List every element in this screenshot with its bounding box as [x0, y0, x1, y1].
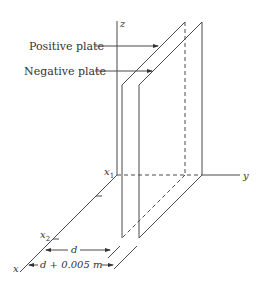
positive-plate-label: Positive plate [29, 40, 104, 53]
d-label: d [71, 244, 77, 255]
negative-plate [139, 22, 202, 238]
negative-plate-label: Negative plate [24, 65, 106, 78]
z-axis-label: z [119, 18, 126, 29]
y-axis-label: y [242, 170, 249, 181]
capacitor-plates-diagram: z y x x1 x2 Positive plate Negative plat… [0, 0, 264, 286]
x-axis [20, 175, 117, 272]
d-extension-line [108, 246, 120, 258]
x2-label: x2 [40, 229, 50, 243]
positive-plate [122, 22, 185, 238]
d-plus-extension-line [114, 246, 137, 269]
x-axis-label: x [13, 263, 19, 274]
d-plus-label: d + 0.005 m [40, 259, 102, 270]
x1-label: x1 [104, 166, 114, 180]
